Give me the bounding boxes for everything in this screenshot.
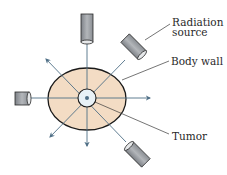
leader-radiation-source xyxy=(145,24,170,40)
radiation-source-left xyxy=(15,92,31,105)
radiation-source-upper-right xyxy=(121,34,148,61)
label-tumor: Tumor xyxy=(172,131,207,141)
label-radiation-source-line2: source xyxy=(172,27,208,37)
tumor-shape xyxy=(78,89,96,107)
radiation-source-top xyxy=(81,14,93,44)
radiation-therapy-diagram: Radiation source Body wall Tumor xyxy=(0,0,227,175)
radiation-source-lower-right xyxy=(123,140,150,167)
label-body-wall: Body wall xyxy=(171,56,223,66)
leader-body-wall xyxy=(122,61,169,80)
